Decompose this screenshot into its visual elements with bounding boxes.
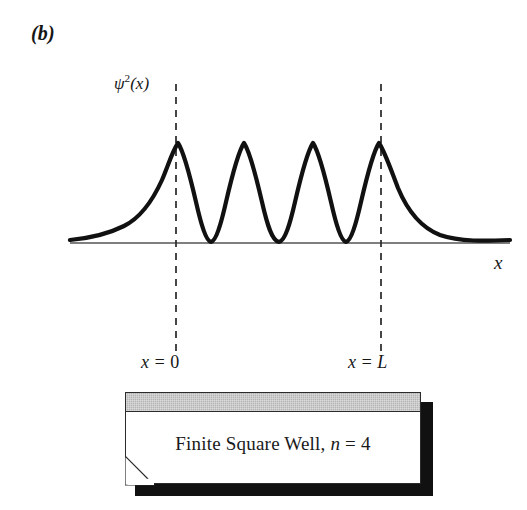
caption-callout: Finite Square Well, n = 4 <box>125 392 423 486</box>
marker-label-well-right-edge: x = L <box>348 352 387 373</box>
caption-text-tail: = 4 <box>340 433 371 454</box>
caption-box: Finite Square Well, n = 4 <box>125 392 421 484</box>
y-axis-label: ψ2(x) <box>114 74 149 94</box>
caption-text-main: Finite Square Well, <box>175 433 330 454</box>
y-axis-label-symbol: ψ <box>114 74 125 93</box>
marker-label-prefix-right: x = <box>348 352 377 372</box>
y-axis-label-argument: (x) <box>130 74 149 93</box>
figure-root: (b) ψ2(x) x x = 0 x = L Finite Square We… <box>0 0 527 510</box>
marker-label-value-left: 0 <box>170 352 179 372</box>
caption-text: Finite Square Well, n = 4 <box>126 433 420 455</box>
marker-label-prefix-left: x = <box>141 352 170 372</box>
marker-label-value-right: L <box>377 352 387 372</box>
marker-label-well-left-edge: x = 0 <box>141 352 179 373</box>
x-axis-label: x <box>494 252 502 274</box>
caption-header-band <box>126 393 420 412</box>
caption-text-italic-n: n <box>330 433 340 454</box>
psi-squared-curve <box>70 143 510 242</box>
folded-corner-icon <box>125 456 165 486</box>
